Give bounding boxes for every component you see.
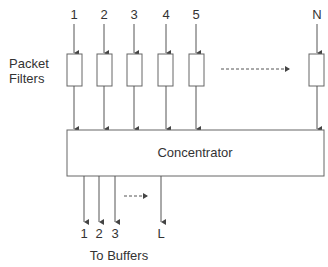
- filter-box-n: [309, 54, 324, 86]
- input-5: [189, 24, 204, 129]
- filter-box-1: [67, 54, 82, 86]
- input-3: [127, 24, 142, 129]
- input-2: [97, 24, 112, 129]
- filter-box-4: [158, 54, 173, 86]
- to-buffers-label: To Buffers: [90, 249, 148, 262]
- output-label-2: 2: [95, 227, 102, 240]
- input-n: [309, 24, 324, 129]
- input-1: [67, 24, 82, 129]
- output-label-l: L: [157, 227, 164, 240]
- input-label-1: 1: [70, 8, 77, 21]
- input-label-n: N: [312, 8, 321, 21]
- input-label-3: 3: [130, 8, 137, 21]
- packet-filters-label-line1: Packet: [9, 57, 49, 70]
- concentrator-label: Concentrator: [157, 146, 232, 159]
- filter-box-3: [127, 54, 142, 86]
- input-label-2: 2: [100, 8, 107, 21]
- input-label-4: 4: [162, 8, 169, 21]
- filter-box-5: [189, 54, 204, 86]
- output-label-3: 3: [111, 227, 118, 240]
- filter-box-2: [97, 54, 112, 86]
- packet-filters-label-line2: Filters: [9, 72, 44, 85]
- output-label-1: 1: [80, 227, 87, 240]
- input-label-5: 5: [192, 8, 199, 21]
- input-4: [158, 24, 173, 129]
